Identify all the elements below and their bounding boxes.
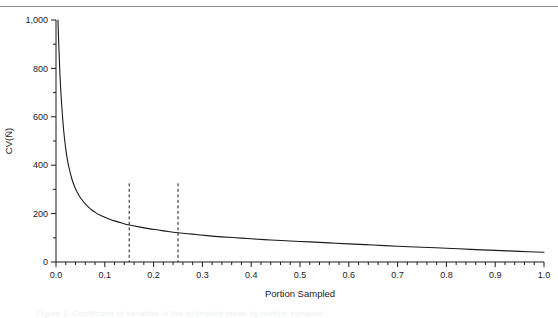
x-tick-label: 0.0 [50, 270, 63, 280]
figure-container: 02004006008001,0000.00.10.20.30.40.50.60… [0, 0, 558, 318]
x-tick-label: 0.3 [196, 270, 209, 280]
x-tick-label: 0.6 [343, 270, 356, 280]
y-tick-label: 200 [33, 209, 48, 219]
y-tick-label: 400 [33, 160, 48, 170]
cv-vs-portion-sampled-chart: 02004006008001,0000.00.10.20.30.40.50.60… [0, 0, 558, 318]
y-tick-label: 600 [33, 112, 48, 122]
x-tick-label: 0.7 [391, 270, 404, 280]
y-tick-label: 1,000 [25, 15, 48, 25]
figure-caption: Figure 1. Coefficient of variation of th… [36, 309, 325, 318]
x-tick-label: 1.0 [538, 270, 551, 280]
x-tick-label: 0.5 [294, 270, 307, 280]
y-tick-label: 800 [33, 64, 48, 74]
y-tick-label: 0 [43, 257, 48, 267]
x-tick-label: 0.8 [440, 270, 453, 280]
x-tick-label: 0.2 [147, 270, 160, 280]
x-tick-label: 0.9 [489, 270, 502, 280]
x-axis-title: Portion Sampled [265, 288, 335, 299]
data-series-line-0 [58, 20, 544, 252]
x-tick-label: 0.4 [245, 270, 258, 280]
y-axis-title: CV(N̄) [3, 128, 14, 154]
x-tick-label: 0.1 [99, 270, 112, 280]
